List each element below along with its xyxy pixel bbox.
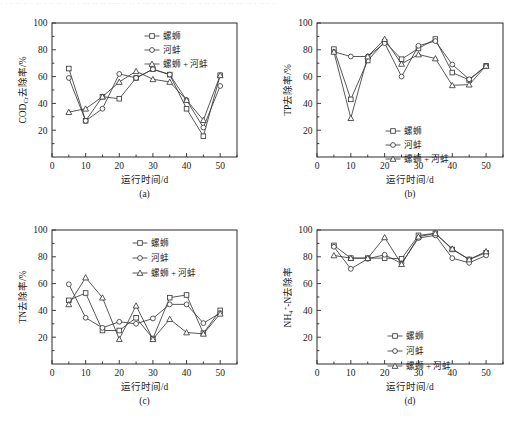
svg-text:40: 40 xyxy=(303,306,313,316)
chart-c: 0102030405020406080100运行时间/d(c)TN去除率/%螺蛳… xyxy=(0,214,265,445)
svg-text:0: 0 xyxy=(50,368,55,378)
svg-text:螺蛳 + 河蚌: 螺蛳 + 河蚌 xyxy=(404,153,449,164)
svg-text:20: 20 xyxy=(38,333,48,343)
svg-text:20: 20 xyxy=(303,126,313,136)
svg-text:螺蛳: 螺蛳 xyxy=(163,31,181,41)
svg-text:(d): (d) xyxy=(404,396,415,407)
svg-text:100: 100 xyxy=(298,225,313,235)
svg-text:100: 100 xyxy=(33,18,48,28)
chart-a: 0102030405020406080100运行时间/d(a)CODCr去除率/… xyxy=(0,9,265,214)
svg-text:(a): (a) xyxy=(139,189,150,200)
svg-text:40: 40 xyxy=(38,99,48,109)
svg-text:60: 60 xyxy=(38,279,48,289)
panel-cell-d: 0102030405020406080100运行时间/d(d)NH4+-N去除率… xyxy=(265,214,531,445)
svg-text:60: 60 xyxy=(303,279,313,289)
svg-text:20: 20 xyxy=(115,161,125,171)
svg-text:100: 100 xyxy=(298,18,313,28)
svg-text:10: 10 xyxy=(346,368,356,378)
svg-text:螺蛳 + 河蚌: 螺蛳 + 河蚌 xyxy=(163,58,208,69)
svg-text:30: 30 xyxy=(148,368,158,378)
svg-text:60: 60 xyxy=(303,72,313,82)
svg-text:10: 10 xyxy=(81,368,91,378)
svg-text:30: 30 xyxy=(148,161,158,171)
chart-b: 0102030405020406080100运行时间/d(b)TP去除率/%螺蛳… xyxy=(265,9,531,214)
svg-text:50: 50 xyxy=(481,368,491,378)
svg-text:螺蛳: 螺蛳 xyxy=(406,331,424,341)
svg-text:TN去除率/%: TN去除率/% xyxy=(17,270,28,323)
svg-text:20: 20 xyxy=(380,368,390,378)
svg-text:河蚌: 河蚌 xyxy=(406,345,424,356)
svg-text:80: 80 xyxy=(38,45,48,55)
svg-text:80: 80 xyxy=(303,45,313,55)
chart-d: 0102030405020406080100运行时间/d(d)NH4+-N去除率… xyxy=(265,214,531,445)
svg-text:20: 20 xyxy=(303,333,313,343)
svg-text:河蚌: 河蚌 xyxy=(151,252,169,263)
scan-artifact-strip: · · · ·· ·· · ·· · ·· ·· · ·· · ··· ·· ·… xyxy=(0,0,531,9)
svg-text:100: 100 xyxy=(33,225,48,235)
svg-text:40: 40 xyxy=(182,161,192,171)
svg-text:(b): (b) xyxy=(404,189,415,200)
panel-cell-c: 0102030405020406080100运行时间/d(c)TN去除率/%螺蛳… xyxy=(0,214,265,445)
svg-text:螺蛳 + 河蚌: 螺蛳 + 河蚌 xyxy=(151,267,196,278)
svg-text:60: 60 xyxy=(38,72,48,82)
svg-text:20: 20 xyxy=(380,161,390,171)
svg-text:运行时间/d: 运行时间/d xyxy=(386,381,434,392)
svg-text:河蚌: 河蚌 xyxy=(404,139,422,150)
svg-text:螺蛳: 螺蛳 xyxy=(404,126,422,136)
svg-text:NH4+-N去除率: NH4+-N去除率 xyxy=(282,267,294,328)
svg-text:CODCr去除率/%: CODCr去除率/% xyxy=(17,56,29,123)
svg-text:0: 0 xyxy=(50,161,55,171)
svg-text:40: 40 xyxy=(38,306,48,316)
svg-text:50: 50 xyxy=(481,161,491,171)
svg-text:40: 40 xyxy=(303,99,313,109)
svg-text:0: 0 xyxy=(315,161,320,171)
svg-text:80: 80 xyxy=(303,252,313,262)
svg-text:螺蛳 + 河蚌: 螺蛳 + 河蚌 xyxy=(406,360,451,371)
svg-text:10: 10 xyxy=(81,161,91,171)
panel-cell-b: 0102030405020406080100运行时间/d(b)TP去除率/%螺蛳… xyxy=(265,9,531,214)
svg-text:TP去除率/%: TP去除率/% xyxy=(282,64,293,116)
svg-text:运行时间/d: 运行时间/d xyxy=(121,174,169,185)
svg-text:河蚌: 河蚌 xyxy=(163,44,181,55)
svg-text:(c): (c) xyxy=(139,396,150,407)
svg-text:40: 40 xyxy=(182,368,192,378)
panel-cell-a: 0102030405020406080100运行时间/d(a)CODCr去除率/… xyxy=(0,9,265,214)
svg-text:0: 0 xyxy=(315,368,320,378)
svg-text:50: 50 xyxy=(215,161,225,171)
svg-text:10: 10 xyxy=(346,161,356,171)
svg-text:螺蛳: 螺蛳 xyxy=(151,238,169,248)
svg-text:20: 20 xyxy=(115,368,125,378)
svg-text:50: 50 xyxy=(215,368,225,378)
svg-text:运行时间/d: 运行时间/d xyxy=(121,381,169,392)
svg-text:20: 20 xyxy=(38,126,48,136)
svg-text:80: 80 xyxy=(38,252,48,262)
figure-panel-grid: 0102030405020406080100运行时间/d(a)CODCr去除率/… xyxy=(0,9,531,445)
svg-text:运行时间/d: 运行时间/d xyxy=(386,174,434,185)
